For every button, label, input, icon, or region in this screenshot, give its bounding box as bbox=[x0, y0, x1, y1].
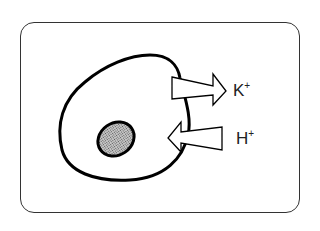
cell-membrane bbox=[60, 55, 189, 180]
k-ion-label: K+ bbox=[233, 80, 250, 101]
h-ion-label: H+ bbox=[236, 128, 254, 149]
cell-diagram bbox=[0, 0, 320, 231]
